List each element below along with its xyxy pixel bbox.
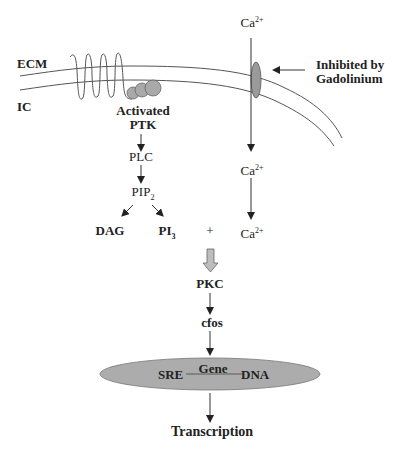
cfos-label: cfos [201, 316, 223, 330]
calcium-channel-icon [251, 62, 261, 98]
ca-text: Ca [241, 15, 255, 30]
transcription-label: Transcription [171, 425, 253, 439]
inhibited-label-line2: Gadolinium [316, 72, 382, 86]
ptk-label: PTK [130, 118, 157, 132]
plus-sign: + [206, 224, 213, 238]
ecm-label: ECM [17, 57, 47, 71]
block-down-arrow-icon [203, 249, 218, 272]
ca-charge: 2+ [255, 163, 264, 172]
gene-label: Gene [199, 362, 228, 376]
ic-label: IC [17, 100, 31, 114]
dna-label: DNA [241, 368, 269, 382]
ca-charge: 2+ [255, 226, 264, 235]
ca-text: Ca [241, 226, 255, 241]
pip2-label: PIP2 [132, 185, 155, 205]
pip2-to-pi3-arrow [152, 205, 161, 214]
ca-mid-label: Ca2+ [241, 161, 264, 178]
pi-text: PI [159, 223, 172, 238]
pip-subscript: 2 [150, 193, 154, 202]
ca-text: Ca [241, 163, 255, 178]
receptor-icon [70, 53, 132, 99]
pi3-label: PI3 [159, 224, 176, 244]
pkc-label: PKC [196, 277, 223, 291]
pip-text: PIP [132, 184, 151, 199]
ca-top-label: Ca2+ [241, 13, 264, 30]
inhibited-label-line1: Inhibited by [316, 58, 384, 72]
cell-membrane [20, 66, 342, 146]
pi-subscript: 3 [172, 232, 176, 241]
dag-label: DAG [96, 224, 125, 238]
activated-label: Activated [116, 104, 169, 118]
ptk-protein-icon [127, 80, 161, 99]
ca-charge: 2+ [255, 15, 264, 24]
sre-label: SRE [158, 368, 183, 382]
plc-label: PLC [129, 150, 153, 164]
ca-bottom-label: Ca2+ [241, 224, 264, 241]
diagram-canvas: ECM IC Activated PTK PLC PIP2 DAG PI3 + … [0, 0, 402, 451]
pip2-to-dag-arrow [124, 205, 133, 214]
